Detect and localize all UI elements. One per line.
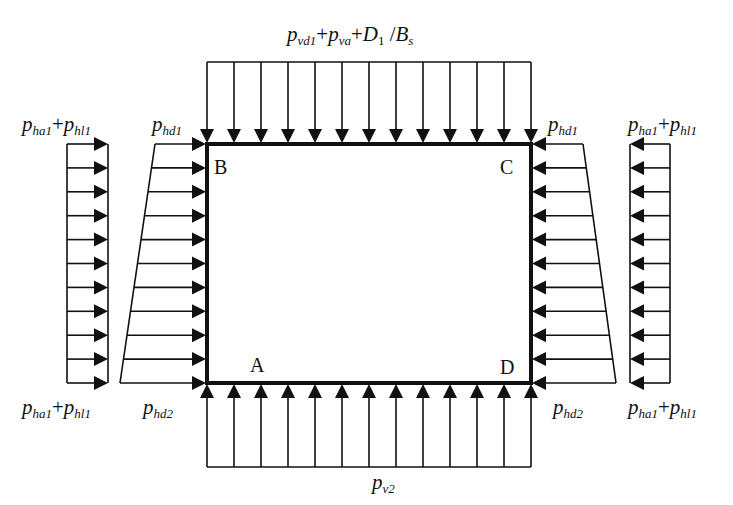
arrowhead-icon [227, 129, 241, 143]
arrowhead-icon [630, 209, 644, 223]
arrowhead-icon [470, 384, 484, 398]
arrowhead-icon [192, 376, 206, 390]
arrowhead-icon [281, 384, 295, 398]
arrowhead-icon [532, 161, 546, 175]
bottom-vertical-load [200, 384, 538, 467]
arrowhead-icon [362, 384, 376, 398]
left-trapezoidal-load [120, 137, 206, 390]
arrowhead-icon [497, 129, 511, 143]
arrowhead-icon [192, 209, 206, 223]
corner-label-a: A [250, 355, 264, 375]
arrowhead-icon [94, 161, 108, 175]
left-bottom-uniform-label: pha1+phl1 [22, 397, 91, 420]
arrowhead-icon [416, 129, 430, 143]
arrowhead-icon [94, 280, 108, 294]
arrowhead-icon [94, 376, 108, 390]
arrowhead-icon [630, 376, 644, 390]
top-load-label: pvd1+pva+D1 /Bs [287, 24, 413, 47]
arrowhead-icon [254, 129, 268, 143]
left-uniform-load [67, 137, 108, 390]
arrowhead-icon [200, 384, 214, 398]
arrowhead-icon [94, 137, 108, 151]
arrowhead-icon [389, 384, 403, 398]
right-bottom-uniform-label: pha1+phl1 [628, 397, 697, 420]
arrowhead-icon [630, 257, 644, 271]
arrowhead-icon [192, 161, 206, 175]
arrowhead-icon [532, 352, 546, 366]
top-vertical-load [200, 62, 538, 143]
arrowhead-icon [532, 304, 546, 318]
arrowhead-icon [630, 161, 644, 175]
right-uniform-load [630, 137, 670, 390]
arrowhead-icon [532, 137, 546, 151]
arrowhead-icon [497, 384, 511, 398]
arrowhead-icon [630, 137, 644, 151]
arrowhead-icon [524, 384, 538, 398]
bottom-load-label: pv2 [372, 472, 395, 495]
arrowhead-icon [630, 304, 644, 318]
left-top-trap-label: phd1 [152, 114, 182, 137]
load-diagram [0, 0, 733, 505]
right-bottom-trap-label: phd2 [553, 397, 583, 420]
corner-label-d: D [500, 357, 514, 377]
arrowhead-icon [443, 384, 457, 398]
box-frame [207, 144, 531, 383]
arrowhead-icon [192, 304, 206, 318]
arrowhead-icon [94, 257, 108, 271]
arrowhead-icon [94, 185, 108, 199]
arrowhead-icon [94, 304, 108, 318]
arrowhead-icon [630, 328, 644, 342]
left-bottom-trap-label: phd2 [143, 397, 173, 420]
arrowhead-icon [532, 328, 546, 342]
arrowhead-icon [192, 257, 206, 271]
arrowhead-icon [192, 185, 206, 199]
arrowhead-icon [389, 129, 403, 143]
arrowhead-icon [335, 129, 349, 143]
arrowhead-icon [192, 352, 206, 366]
arrowhead-icon [308, 129, 322, 143]
arrowhead-icon [200, 129, 214, 143]
arrowhead-icon [335, 384, 349, 398]
arrowhead-icon [192, 328, 206, 342]
corner-label-c: C [500, 157, 513, 177]
arrowhead-icon [362, 129, 376, 143]
arrowhead-icon [532, 233, 546, 247]
arrowhead-icon [192, 233, 206, 247]
arrowhead-icon [308, 384, 322, 398]
arrowhead-icon [630, 185, 644, 199]
left-top-uniform-label: pha1+phl1 [22, 114, 91, 137]
arrowhead-icon [192, 137, 206, 151]
arrowhead-icon [94, 328, 108, 342]
arrowhead-icon [630, 280, 644, 294]
arrowhead-icon [630, 233, 644, 247]
arrowhead-icon [94, 209, 108, 223]
arrowhead-icon [532, 280, 546, 294]
arrowhead-icon [227, 384, 241, 398]
arrowhead-icon [532, 185, 546, 199]
corner-label-b: B [214, 157, 227, 177]
arrowhead-icon [254, 384, 268, 398]
arrowhead-icon [416, 384, 430, 398]
arrowhead-icon [281, 129, 295, 143]
right-top-trap-label: phd1 [548, 114, 578, 137]
arrowhead-icon [94, 352, 108, 366]
arrowhead-icon [94, 233, 108, 247]
arrowhead-icon [630, 352, 644, 366]
arrowhead-icon [524, 129, 538, 143]
arrowhead-icon [532, 257, 546, 271]
arrowhead-icon [192, 280, 206, 294]
right-trapezoidal-load [532, 137, 616, 390]
arrowhead-icon [470, 129, 484, 143]
right-top-uniform-label: pha1+phl1 [628, 114, 697, 137]
arrowhead-icon [443, 129, 457, 143]
arrowhead-icon [532, 376, 546, 390]
arrowhead-icon [532, 209, 546, 223]
